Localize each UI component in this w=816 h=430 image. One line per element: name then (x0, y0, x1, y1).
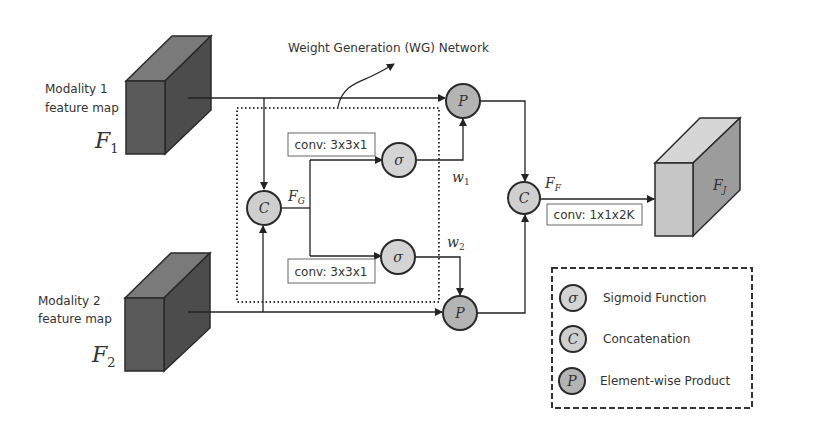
modality2-label-line1: Modality 2 (38, 294, 101, 308)
wg-pointer-arrow (338, 64, 394, 107)
concat-node-fg: C (247, 191, 281, 225)
conv3-label: conv: 1x1x2K (554, 208, 636, 222)
w1-label: w1 (452, 169, 470, 187)
svg-text:P: P (454, 305, 465, 321)
conv2-label: conv: 3x3x1 (295, 265, 368, 279)
fused-output-cube (655, 118, 740, 236)
fusion-diagram: Weight Generation (WG) Network Modality … (0, 0, 816, 430)
ff-label: FF (544, 175, 562, 193)
wg-network-title: Weight Generation (WG) Network (288, 41, 489, 55)
f1-symbol: F1 (94, 128, 119, 156)
f2-symbol: F2 (91, 342, 116, 370)
svg-text:C: C (568, 331, 579, 347)
modality2-label-line2: feature map (38, 312, 112, 326)
svg-text:P: P (457, 93, 468, 109)
sigmoid-node-2: σ (381, 240, 415, 274)
product-node-1: P (446, 84, 480, 118)
svg-text:C: C (519, 190, 530, 206)
product-node-2: P (443, 296, 477, 330)
conv1-label: conv: 3x3x1 (295, 138, 368, 152)
svg-text:C: C (259, 200, 270, 216)
svg-text:σ: σ (394, 152, 404, 168)
svg-text:P: P (566, 373, 577, 389)
fg-label: FG (287, 188, 305, 206)
concat-node-ff: C (508, 182, 540, 214)
svg-text:σ: σ (568, 290, 578, 306)
modality1-feature-cube (126, 36, 211, 154)
svg-text:Concatenation: Concatenation (603, 332, 690, 346)
svg-text:Sigmoid Function: Sigmoid Function (603, 291, 706, 305)
svg-text:σ: σ (393, 249, 403, 265)
svg-text:Element-wise Product: Element-wise Product (600, 374, 730, 388)
sigmoid-node-1: σ (382, 143, 416, 177)
w2-label: w2 (447, 234, 465, 252)
modality1-label-line1: Modality 1 (45, 82, 108, 96)
modality1-label-line2: feature map (45, 101, 119, 115)
